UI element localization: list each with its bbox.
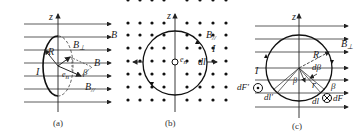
B-parallel-label: B// xyxy=(85,82,95,94)
caption-c: (c) xyxy=(292,121,302,131)
z-label: z xyxy=(167,11,171,21)
caption-b: (b) xyxy=(165,118,176,128)
e-n-label: en xyxy=(180,56,187,66)
dl-label: dl xyxy=(198,57,206,67)
z-label: z xyxy=(49,12,53,22)
current-loop-back xyxy=(58,36,73,96)
beta-outer-label: β xyxy=(331,82,335,91)
B-vector-label: B xyxy=(94,58,100,68)
dl-prime-label: dl′ xyxy=(264,93,273,102)
B-perp-label: B⊥ xyxy=(341,39,353,51)
beta-inner-label: β xyxy=(293,77,297,85)
R-label: R xyxy=(48,47,54,57)
B-parallel-label: B// xyxy=(206,30,216,42)
e-n-label: en xyxy=(62,71,69,81)
B-label: B xyxy=(111,30,117,40)
current-loop-front xyxy=(43,36,58,96)
panel-c: z B⊥ R I dβ β r β dF′ dl′ dl dF (c) xyxy=(237,0,357,140)
I-label: I xyxy=(212,44,215,54)
I-label: I xyxy=(255,66,258,76)
dl-label: dl xyxy=(312,97,319,106)
dF-label: dF xyxy=(333,94,343,103)
B-perp-label: B⊥ xyxy=(73,40,85,52)
panel-a: z B B⊥ R I B β en B// (a) xyxy=(0,0,120,140)
R-label: R xyxy=(313,50,319,60)
z-label: z xyxy=(292,12,296,22)
beta-label: β xyxy=(83,68,87,77)
r-label: r xyxy=(312,80,316,90)
panel-b: z B// I en dl (b) xyxy=(120,0,240,140)
panel-b-drawing xyxy=(120,0,240,140)
caption-a: (a) xyxy=(53,118,63,128)
I-label: I xyxy=(36,67,39,77)
dbeta-label: dβ xyxy=(312,63,321,72)
dF-prime-label: dF′ xyxy=(237,83,249,92)
